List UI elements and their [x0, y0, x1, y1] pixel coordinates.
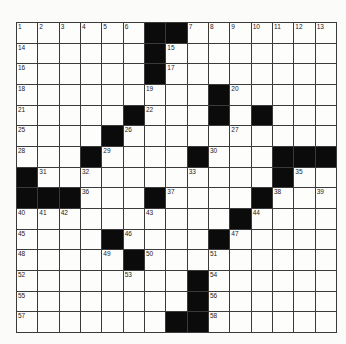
crossword-cell[interactable]: 53 — [124, 271, 144, 291]
crossword-cell[interactable] — [60, 147, 80, 167]
crossword-cell[interactable]: 32 — [81, 168, 101, 188]
crossword-cell[interactable]: 48 — [17, 250, 37, 270]
crossword-cell[interactable]: 52 — [17, 271, 37, 291]
crossword-cell[interactable] — [38, 85, 58, 105]
crossword-cell[interactable] — [252, 64, 272, 84]
crossword-cell[interactable] — [316, 209, 336, 229]
crossword-cell[interactable] — [145, 126, 165, 146]
crossword-cell[interactable]: 40 — [17, 209, 37, 229]
crossword-cell[interactable] — [252, 230, 272, 250]
crossword-cell[interactable] — [209, 44, 229, 64]
crossword-cell[interactable]: 10 — [252, 23, 272, 43]
crossword-cell[interactable] — [273, 292, 293, 312]
crossword-cell[interactable] — [81, 292, 101, 312]
crossword-cell[interactable]: 27 — [230, 126, 250, 146]
crossword-cell[interactable] — [316, 230, 336, 250]
crossword-cell[interactable] — [145, 147, 165, 167]
crossword-cell[interactable] — [166, 126, 186, 146]
crossword-cell[interactable] — [166, 147, 186, 167]
crossword-cell[interactable] — [60, 64, 80, 84]
crossword-cell[interactable] — [145, 292, 165, 312]
crossword-cell[interactable] — [273, 250, 293, 270]
crossword-cell[interactable]: 20 — [230, 85, 250, 105]
crossword-cell[interactable]: 25 — [17, 126, 37, 146]
crossword-cell[interactable] — [294, 126, 314, 146]
crossword-cell[interactable] — [38, 106, 58, 126]
crossword-cell[interactable] — [124, 168, 144, 188]
crossword-cell[interactable] — [316, 250, 336, 270]
crossword-cell[interactable] — [252, 44, 272, 64]
crossword-cell[interactable]: 46 — [124, 230, 144, 250]
crossword-cell[interactable] — [230, 44, 250, 64]
crossword-cell[interactable] — [188, 44, 208, 64]
crossword-cell[interactable] — [273, 209, 293, 229]
crossword-cell[interactable] — [188, 106, 208, 126]
crossword-cell[interactable] — [81, 230, 101, 250]
crossword-cell[interactable] — [60, 250, 80, 270]
crossword-cell[interactable] — [102, 106, 122, 126]
crossword-cell[interactable] — [145, 312, 165, 332]
crossword-cell[interactable] — [102, 64, 122, 84]
crossword-cell[interactable] — [166, 85, 186, 105]
crossword-cell[interactable]: 9 — [230, 23, 250, 43]
crossword-cell[interactable]: 31 — [38, 168, 58, 188]
crossword-cell[interactable] — [273, 230, 293, 250]
crossword-cell[interactable]: 1 — [17, 23, 37, 43]
crossword-cell[interactable] — [60, 168, 80, 188]
crossword-cell[interactable] — [316, 126, 336, 146]
crossword-cell[interactable]: 44 — [252, 209, 272, 229]
crossword-cell[interactable]: 8 — [209, 23, 229, 43]
crossword-cell[interactable] — [38, 250, 58, 270]
crossword-cell[interactable] — [230, 168, 250, 188]
crossword-cell[interactable] — [294, 271, 314, 291]
crossword-cell[interactable] — [145, 230, 165, 250]
crossword-cell[interactable] — [60, 126, 80, 146]
crossword-cell[interactable] — [209, 209, 229, 229]
crossword-cell[interactable] — [188, 126, 208, 146]
crossword-cell[interactable] — [81, 64, 101, 84]
crossword-cell[interactable] — [316, 312, 336, 332]
crossword-cell[interactable] — [294, 64, 314, 84]
crossword-cell[interactable]: 7 — [188, 23, 208, 43]
crossword-cell[interactable] — [252, 85, 272, 105]
crossword-cell[interactable] — [230, 64, 250, 84]
crossword-cell[interactable] — [294, 188, 314, 208]
crossword-cell[interactable]: 3 — [60, 23, 80, 43]
crossword-cell[interactable] — [102, 44, 122, 64]
crossword-cell[interactable]: 37 — [166, 188, 186, 208]
crossword-cell[interactable] — [273, 44, 293, 64]
crossword-cell[interactable] — [102, 188, 122, 208]
crossword-cell[interactable]: 15 — [166, 44, 186, 64]
crossword-cell[interactable] — [294, 85, 314, 105]
crossword-cell[interactable] — [124, 147, 144, 167]
crossword-cell[interactable] — [273, 106, 293, 126]
crossword-cell[interactable] — [273, 64, 293, 84]
crossword-cell[interactable] — [209, 64, 229, 84]
crossword-cell[interactable]: 36 — [81, 188, 101, 208]
crossword-cell[interactable] — [102, 271, 122, 291]
crossword-cell[interactable] — [38, 64, 58, 84]
crossword-cell[interactable] — [166, 271, 186, 291]
crossword-cell[interactable] — [316, 271, 336, 291]
crossword-cell[interactable] — [252, 168, 272, 188]
crossword-cell[interactable]: 19 — [145, 85, 165, 105]
crossword-cell[interactable]: 5 — [102, 23, 122, 43]
crossword-cell[interactable] — [230, 188, 250, 208]
crossword-cell[interactable] — [102, 85, 122, 105]
crossword-cell[interactable]: 6 — [124, 23, 144, 43]
crossword-cell[interactable]: 54 — [209, 271, 229, 291]
crossword-cell[interactable] — [60, 106, 80, 126]
crossword-cell[interactable] — [102, 292, 122, 312]
crossword-cell[interactable] — [273, 271, 293, 291]
crossword-cell[interactable]: 12 — [294, 23, 314, 43]
crossword-cell[interactable] — [60, 44, 80, 64]
crossword-cell[interactable] — [166, 106, 186, 126]
crossword-cell[interactable] — [166, 168, 186, 188]
crossword-cell[interactable] — [81, 209, 101, 229]
crossword-cell[interactable] — [188, 209, 208, 229]
crossword-cell[interactable]: 28 — [17, 147, 37, 167]
crossword-cell[interactable] — [166, 230, 186, 250]
crossword-cell[interactable] — [294, 230, 314, 250]
crossword-cell[interactable] — [273, 85, 293, 105]
crossword-cell[interactable] — [188, 230, 208, 250]
